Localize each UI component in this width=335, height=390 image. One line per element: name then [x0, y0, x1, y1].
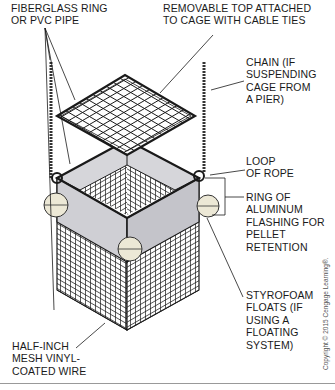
styrofoam-float-left: [44, 193, 68, 217]
bottom-rule: [0, 383, 335, 384]
styrofoam-float-right: [197, 195, 219, 217]
label-fiberglass-ring: FIBERGLASS RING OR PVC PIPE: [11, 2, 108, 27]
label-removable-top: REMOVABLE TOP ATTACHED TO CAGE WITH CABL…: [163, 2, 311, 27]
copyright-notice: Copyright © 2015 Cengage Learning®.: [322, 257, 329, 370]
removable-top-lid: [57, 75, 195, 155]
label-aluminum-flashing: RING OF ALUMINUM FLASHING FOR PELLET RET…: [246, 191, 325, 253]
label-chain: CHAIN (IF SUSPENDING CAGE FROM A PIER): [246, 56, 316, 106]
label-styrofoam-floats: STYROFOAM FLOATS (IF USING A FLOATING SY…: [246, 289, 313, 351]
label-mesh-wire: HALF-INCH MESH VINYL- COATED WIRE: [12, 340, 86, 377]
label-loop-of-rope: LOOP OF ROPE: [246, 155, 294, 180]
